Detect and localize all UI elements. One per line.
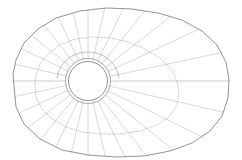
spoke-line xyxy=(110,53,221,77)
spoke-line xyxy=(56,101,78,147)
inner-hub-shell-circle xyxy=(66,59,111,104)
spoke-line xyxy=(93,8,105,59)
spoke-line xyxy=(108,29,199,71)
mesh-spokes-group xyxy=(14,8,229,157)
radial-mesh-figure xyxy=(0,0,242,160)
spoke-line xyxy=(28,95,70,128)
spoke-line xyxy=(21,49,67,72)
spoke-line xyxy=(93,103,105,156)
spoke-line xyxy=(105,95,173,150)
spoke-line xyxy=(102,99,146,156)
spoke-line xyxy=(74,13,84,59)
spoke-line xyxy=(72,103,83,152)
spoke-line xyxy=(98,101,125,156)
inner-hub-core-circle xyxy=(69,62,108,101)
spoke-line xyxy=(41,98,74,139)
spoke-line xyxy=(102,11,145,64)
spoke-line xyxy=(110,86,223,112)
spoke-line xyxy=(15,64,66,76)
spoke-line xyxy=(108,91,202,137)
